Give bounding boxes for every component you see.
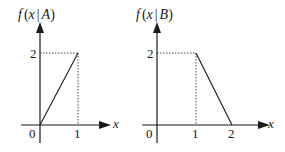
figure-a-xtick-0: 0 <box>29 126 36 141</box>
figure-a: f(x|A) x 2 0 1 <box>18 7 119 143</box>
figure-b-density-line <box>196 53 232 125</box>
figure-b: f(x|B) x 2 0 1 2 <box>136 7 274 143</box>
figure-b-ytick-2: 2 <box>147 46 154 61</box>
figure-b-xtick-0: 0 <box>146 126 153 141</box>
figure-a-ytick-2: 2 <box>30 46 37 61</box>
diagram-canvas: f(x|A) x 2 0 1 f(x|B) x 2 <box>0 0 285 152</box>
figure-b-y-arrow-icon <box>153 22 161 33</box>
figure-a-density-line <box>40 53 78 125</box>
figure-b-xtick-1: 1 <box>192 126 199 141</box>
figure-a-x-arrow-icon <box>99 121 111 129</box>
figure-a-xlabel: x <box>112 116 119 131</box>
figure-a-y-arrow-icon <box>36 22 44 33</box>
figure-a-xtick-1: 1 <box>74 126 81 141</box>
figure-b-ylabel: f(x|B) <box>136 7 173 23</box>
figure-b-xlabel: x <box>267 116 274 131</box>
figure-b-xtick-2: 2 <box>228 126 235 141</box>
figure-a-ylabel: f(x|A) <box>18 7 55 23</box>
